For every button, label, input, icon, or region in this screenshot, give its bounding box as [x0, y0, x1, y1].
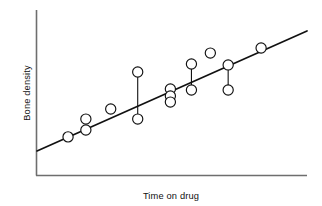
data-point-marker	[223, 60, 233, 70]
data-point-marker	[205, 48, 215, 58]
x-axis-label: Time on drug	[143, 191, 199, 201]
data-point-marker	[186, 59, 196, 69]
data-point-marker	[186, 85, 196, 95]
data-point-marker	[223, 85, 233, 95]
data-points-group	[63, 43, 266, 142]
y-axis-label: Bone density	[22, 65, 32, 121]
data-point-marker	[63, 132, 73, 142]
plot-canvas: Time on drug Bone density	[0, 0, 322, 206]
data-point-marker	[81, 125, 91, 135]
data-point-marker	[165, 97, 175, 107]
data-point-marker	[106, 104, 116, 114]
data-point-marker	[256, 43, 266, 53]
data-point-marker	[81, 114, 91, 124]
data-point-marker	[133, 67, 143, 77]
scatter-plot-figure: Time on drug Bone density	[0, 0, 322, 206]
data-point-marker	[133, 114, 143, 124]
